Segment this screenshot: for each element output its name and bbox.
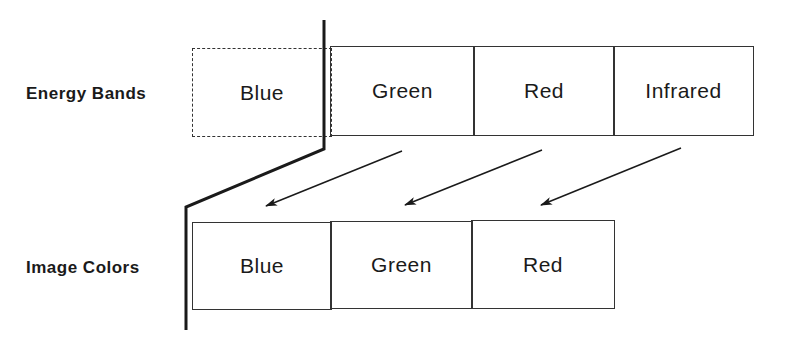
connector-lines: [0, 0, 786, 354]
arrow-infrared-to-red: [541, 148, 681, 205]
cutoff-boundary-line: [186, 20, 324, 330]
arrow-green-to-blue: [266, 151, 402, 206]
arrow-red-to-green: [405, 150, 542, 205]
